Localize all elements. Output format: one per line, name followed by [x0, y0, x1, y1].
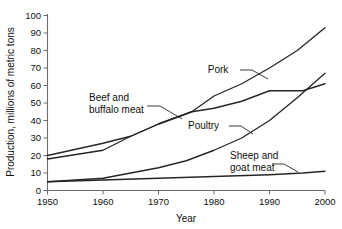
- series-label-sheep-line2: goat meat: [230, 162, 275, 173]
- line-chart-figure: 0 10 20 30 40 50 60 70 80 90 100 1950 19…: [0, 0, 342, 229]
- y-tick-label-30: 30: [30, 132, 41, 143]
- y-tick-label-20: 20: [30, 150, 41, 161]
- y-axis-title: Production, millions of metric tons: [5, 27, 16, 177]
- y-tick-label-70: 70: [30, 62, 41, 73]
- y-tick-marks: [44, 16, 48, 191]
- x-tick-label-1990: 1990: [259, 196, 280, 207]
- chart-canvas: 0 10 20 30 40 50 60 70 80 90 100 1950 19…: [0, 0, 342, 229]
- x-axis-title: Year: [176, 213, 197, 224]
- y-tick-label-0: 0: [36, 185, 41, 196]
- series-label-poultry: Poultry: [188, 120, 219, 131]
- series-label-pork: Pork: [208, 64, 230, 75]
- y-tick-label-80: 80: [30, 45, 41, 56]
- x-tick-marks: [48, 191, 326, 195]
- x-tick-label-1980: 1980: [203, 196, 224, 207]
- series-label-beef-line2: buffalo meat: [89, 104, 144, 115]
- x-tick-label-2000: 2000: [314, 196, 335, 207]
- y-tick-label-10: 10: [30, 167, 41, 178]
- series-label-beef-line1: Beef and: [89, 92, 129, 103]
- y-tick-label-50: 50: [30, 97, 41, 108]
- y-tick-label-90: 90: [30, 27, 41, 38]
- x-tick-label-1960: 1960: [92, 196, 113, 207]
- y-tick-label-60: 60: [30, 80, 41, 91]
- series-label-sheep-line1: Sheep and: [230, 150, 278, 161]
- y-tick-label-100: 100: [25, 10, 41, 21]
- y-tick-label-40: 40: [30, 115, 41, 126]
- x-tick-label-1970: 1970: [148, 196, 169, 207]
- x-tick-label-1950: 1950: [37, 196, 58, 207]
